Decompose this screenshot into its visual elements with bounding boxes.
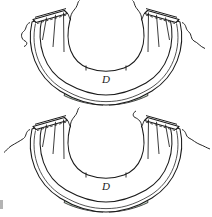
left-clamp-rib-3 [64, 13, 65, 53]
right-clamp-rib-3 [148, 13, 149, 53]
left-clamp-rib-2 [53, 15, 56, 47]
left-clamp-rib-2 [53, 122, 56, 154]
inner-cavity-arc [68, 127, 144, 178]
dimension-label-d-bottom: D [101, 180, 110, 192]
left-break-line [4, 130, 30, 153]
outer-body-outline [30, 18, 181, 105]
figure-bottom: D [0, 107, 212, 217]
page-edge-artifact [0, 200, 3, 209]
figure-top: D [0, 0, 212, 110]
center-right-break-line [133, 111, 141, 127]
right-break-line [182, 130, 210, 150]
inner-cavity-arc [68, 20, 144, 71]
outer-body-outline [30, 125, 181, 212]
dimension-label-d-top: D [101, 73, 110, 85]
center-left-break-line [70, 1, 79, 21]
right-clamp-rib-3 [148, 120, 149, 160]
left-clamp-rib-3 [64, 120, 65, 160]
center-left-break-line [70, 108, 79, 128]
right-break-line [182, 23, 205, 49]
right-clamp-rib-2 [157, 15, 160, 47]
left-break-line [22, 23, 30, 47]
figure-sheet: D D [0, 0, 212, 217]
outer-arc-secondary [34, 24, 178, 102]
right-clamp-rib-2 [157, 122, 160, 154]
center-right-break-line [133, 1, 142, 21]
outer-arc-secondary [34, 131, 178, 209]
